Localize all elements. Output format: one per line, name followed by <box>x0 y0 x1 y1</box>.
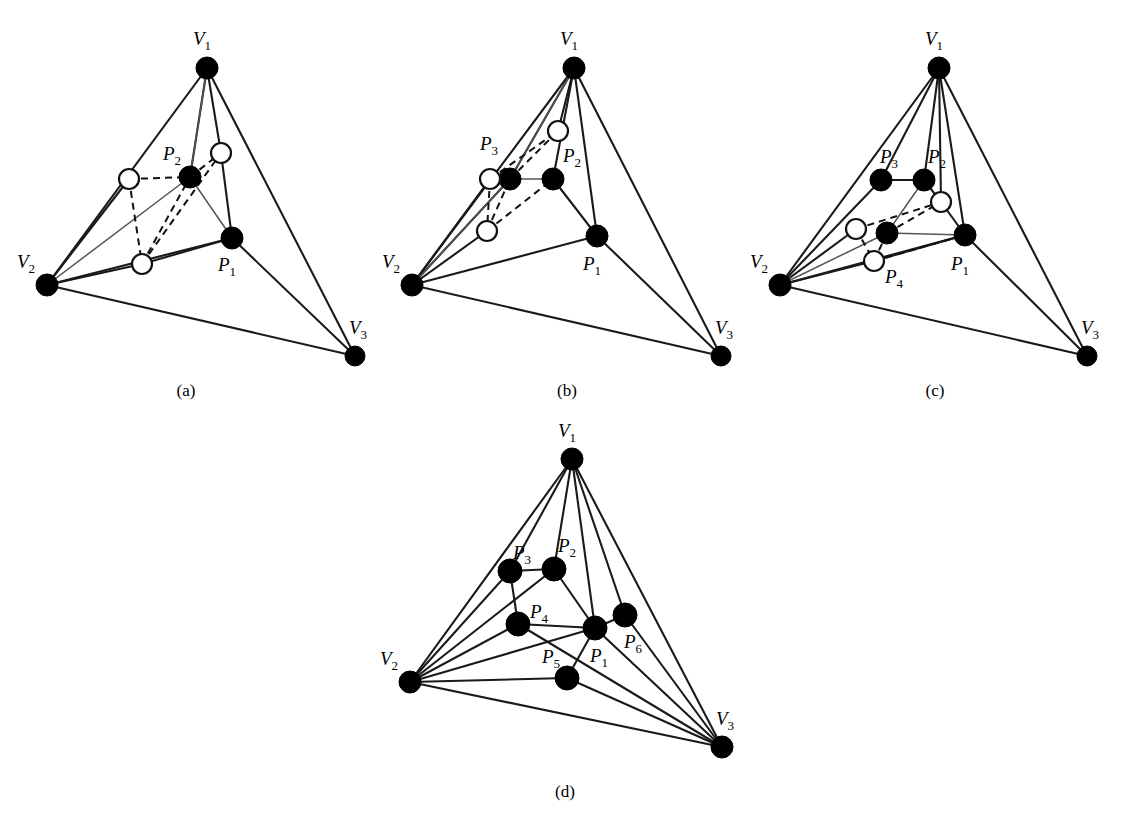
edge-solid-V1-P6 <box>572 459 625 615</box>
node-q3[interactable] <box>132 254 152 274</box>
node-v3[interactable] <box>345 346 365 366</box>
node-v1[interactable] <box>196 57 218 79</box>
label-p1: P1 <box>217 254 236 279</box>
node-v2[interactable] <box>769 274 791 296</box>
figure-root: V1V2V3P1P2(a)V1V2V3P1P2P3(b)V1V2V3P1P2P3… <box>0 0 1133 824</box>
label-p4: P4 <box>884 266 904 291</box>
label-v1: V1 <box>558 420 576 445</box>
edge-solid-V3-P1 <box>232 238 355 356</box>
node-p2[interactable] <box>179 166 201 188</box>
edge-solid-V2-V3 <box>410 682 722 747</box>
label-v3: V3 <box>349 317 367 342</box>
node-q2[interactable] <box>931 192 951 212</box>
panel-caption-b: (b) <box>557 381 577 400</box>
node-q1[interactable] <box>119 169 139 189</box>
edge-solid-V1-P1 <box>572 459 595 628</box>
panel-caption-c: (c) <box>926 381 945 400</box>
label-p2: P2 <box>162 143 181 168</box>
node-p2[interactable] <box>542 168 564 190</box>
node-v2[interactable] <box>401 274 423 296</box>
node-v1[interactable] <box>928 57 950 79</box>
edge-solid-V2-V3 <box>780 285 1087 356</box>
edge-solid-V3-P1 <box>965 235 1087 356</box>
label-p3: P3 <box>479 133 498 158</box>
edge-thin-P4-P1 <box>887 233 965 235</box>
label-v2: V2 <box>382 251 400 276</box>
label-p1: P1 <box>582 253 601 278</box>
node-p3[interactable] <box>499 168 521 190</box>
node-v1[interactable] <box>563 57 585 79</box>
node-p4[interactable] <box>876 222 898 244</box>
node-q3[interactable] <box>477 221 497 241</box>
label-p5: P5 <box>541 646 560 671</box>
node-p1[interactable] <box>583 616 607 640</box>
edge-solid-V1-Q2 <box>939 68 941 202</box>
node-v3[interactable] <box>711 736 733 758</box>
node-v3[interactable] <box>1077 346 1097 366</box>
label-v3: V3 <box>1081 317 1099 342</box>
edge-solid-V2-P4 <box>410 624 518 682</box>
node-q1[interactable] <box>480 169 500 189</box>
label-v2: V2 <box>17 251 35 276</box>
tetrahedron-figure-svg: V1V2V3P1P2(a)V1V2V3P1P2P3(b)V1V2V3P1P2P3… <box>0 0 1133 824</box>
edge-solid-V2-V3 <box>412 285 721 356</box>
label-p1: P1 <box>950 253 969 278</box>
edge-solid-V2-Q3 <box>412 231 487 285</box>
edge-solid-V3-P1 <box>597 236 721 356</box>
node-p3[interactable] <box>870 169 892 191</box>
label-v1: V1 <box>925 28 943 53</box>
node-q3[interactable] <box>864 251 884 271</box>
label-p4: P4 <box>529 601 549 626</box>
panel-d: V1V2V3P1P2P3P4P5P6(d) <box>380 420 734 801</box>
edge-solid-V1-V3 <box>574 68 721 356</box>
label-p2: P2 <box>557 535 576 560</box>
edge-solid-V3-P6 <box>625 615 722 747</box>
label-v3: V3 <box>716 708 734 733</box>
label-p2: P2 <box>927 146 946 171</box>
node-q1[interactable] <box>846 219 866 239</box>
panel-b: V1V2V3P1P2P3(b) <box>382 28 733 400</box>
panel-caption-d: (d) <box>555 782 575 801</box>
edge-solid-V1-V3 <box>572 459 722 747</box>
label-p2: P2 <box>562 145 581 170</box>
edge-solid-V2-P3 <box>410 571 510 682</box>
edge-solid-V2-P1 <box>412 236 597 285</box>
node-q2[interactable] <box>548 121 568 141</box>
node-p1[interactable] <box>586 225 608 247</box>
node-p2[interactable] <box>542 557 566 581</box>
label-p1: P1 <box>589 645 608 670</box>
edge-solid-V2-P5 <box>410 678 567 682</box>
node-v3[interactable] <box>711 346 731 366</box>
panel-caption-a: (a) <box>177 381 196 400</box>
label-v1: V1 <box>560 28 578 53</box>
edge-solid-V3-P1 <box>595 628 722 747</box>
label-v2: V2 <box>750 251 768 276</box>
panel-a: V1V2V3P1P2(a) <box>17 28 367 400</box>
edge-thin-V1-P2 <box>190 68 207 177</box>
node-p4[interactable] <box>506 612 530 636</box>
label-v2: V2 <box>380 648 398 673</box>
label-v1: V1 <box>193 28 211 53</box>
edge-solid-V3-P4 <box>518 624 722 747</box>
node-p1[interactable] <box>221 227 243 249</box>
label-v3: V3 <box>715 317 733 342</box>
node-p1[interactable] <box>954 224 976 246</box>
node-v2[interactable] <box>399 671 421 693</box>
edge-solid-V2-V3 <box>47 285 355 356</box>
edge-solid-V2-Q1 <box>780 229 856 285</box>
node-p2[interactable] <box>913 169 935 191</box>
panel-c: V1V2V3P1P2P3P4(c) <box>750 28 1099 400</box>
node-q2[interactable] <box>211 143 231 163</box>
edge-solid-V3-P5 <box>567 678 722 747</box>
node-p6[interactable] <box>613 603 637 627</box>
node-v2[interactable] <box>36 274 58 296</box>
node-v1[interactable] <box>561 448 583 470</box>
